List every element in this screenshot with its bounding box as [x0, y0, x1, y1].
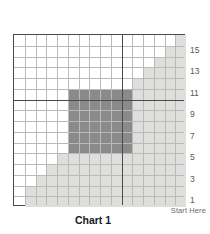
- gridline-horizontal: [14, 175, 184, 176]
- row-label: 7: [190, 132, 195, 141]
- gridline-horizontal: [14, 153, 184, 154]
- gridline-horizontal: [14, 132, 184, 133]
- gridline-vertical: [100, 35, 101, 205]
- gridline-horizontal: [14, 67, 184, 68]
- row-label: 15: [190, 46, 199, 55]
- gridline-horizontal: [14, 143, 184, 144]
- gridline-vertical-major: [122, 35, 124, 205]
- gridline-vertical: [165, 35, 166, 205]
- gridline-vertical: [143, 35, 144, 205]
- row-label: 5: [190, 153, 195, 162]
- gridline-horizontal: [14, 186, 184, 187]
- grid-line-layer: [14, 35, 184, 205]
- gridline-vertical: [154, 35, 155, 205]
- chart-title: Chart 1: [0, 214, 186, 226]
- knitting-grid[interactable]: [13, 34, 185, 206]
- gridline-horizontal: [14, 121, 184, 122]
- gridline-vertical: [111, 35, 112, 205]
- gridline-horizontal: [14, 196, 184, 197]
- row-label: 13: [190, 67, 199, 76]
- gridline-horizontal: [14, 57, 184, 58]
- gridline-horizontal: [14, 46, 184, 47]
- gridline-vertical: [57, 35, 58, 205]
- gridline-horizontal: [14, 110, 184, 111]
- gridline-vertical: [175, 35, 176, 205]
- gridline-vertical: [36, 35, 37, 205]
- gridline-horizontal: [14, 78, 184, 79]
- row-label: 1: [190, 196, 195, 205]
- row-label: 9: [190, 110, 195, 119]
- gridline-vertical: [46, 35, 47, 205]
- row-label: 3: [190, 175, 195, 184]
- gridline-vertical: [79, 35, 80, 205]
- gridline-horizontal: [14, 89, 184, 90]
- gridline-vertical: [89, 35, 90, 205]
- row-label-axis: 15131197531: [186, 34, 210, 206]
- chart-container: 15131197531 Start Here Chart 1: [0, 0, 210, 234]
- gridline-horizontal: [14, 164, 184, 165]
- gridline-vertical: [132, 35, 133, 205]
- gridline-horizontal-major: [14, 100, 184, 102]
- gridline-vertical: [25, 35, 26, 205]
- row-label: 11: [190, 89, 199, 98]
- gridline-vertical: [68, 35, 69, 205]
